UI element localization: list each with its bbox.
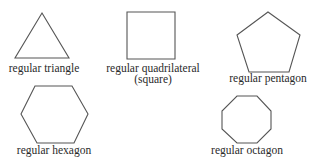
octagon-label: regular octagon <box>208 144 286 156</box>
octagon-shape <box>222 96 271 143</box>
hexagon-label: regular hexagon <box>14 144 94 156</box>
regular-polygons-diagram: regular triangle regular quadrilateral (… <box>0 0 317 168</box>
square-sublabel: (square) <box>104 73 202 85</box>
pentagon-shape <box>237 12 300 72</box>
pentagon-label: regular pentagon <box>227 72 309 84</box>
hexagon-shape <box>21 86 88 143</box>
triangle-label: regular triangle <box>6 62 82 74</box>
triangle-shape <box>15 13 69 58</box>
square-shape <box>127 12 175 59</box>
